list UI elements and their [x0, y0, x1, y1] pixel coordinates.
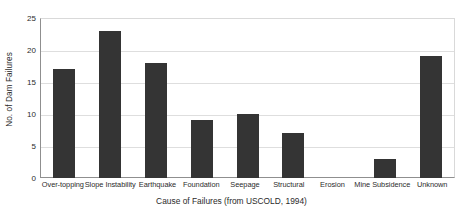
- bar[interactable]: [420, 56, 442, 178]
- bar-slot: [133, 18, 179, 178]
- bar[interactable]: [145, 63, 167, 178]
- x-tick-label: Structural: [267, 180, 311, 189]
- bar-slot: [179, 18, 225, 178]
- x-axis-tick-labels: Over-toppingSlope InstabilityEarthquakeF…: [41, 180, 454, 189]
- bar-slot: [41, 18, 87, 178]
- y-tick-label: 15: [4, 78, 40, 87]
- y-axis-ticks: 0510152025: [0, 18, 40, 178]
- y-tick-label: 10: [4, 110, 40, 119]
- bar-slot: [316, 18, 362, 178]
- bars-layer: [41, 18, 454, 178]
- bar-slot: [362, 18, 408, 178]
- x-tick-label: Unknown: [410, 180, 454, 189]
- y-tick-label: 0: [4, 174, 40, 183]
- x-tick-label: Erosion: [311, 180, 355, 189]
- x-tick-label: Over-topping: [41, 180, 85, 189]
- bar[interactable]: [99, 31, 121, 178]
- bar[interactable]: [282, 133, 304, 178]
- bar-slot: [270, 18, 316, 178]
- bar[interactable]: [191, 120, 213, 178]
- bar-chart: No. of Dam Failures 0510152025 Over-topp…: [0, 0, 463, 221]
- bar[interactable]: [237, 114, 259, 178]
- bar-slot: [408, 18, 454, 178]
- x-tick-label: Foundation: [179, 180, 223, 189]
- x-tick-label: Mine Subsidence: [354, 180, 410, 189]
- x-axis-title: Cause of Failures (from USCOLD, 1994): [0, 196, 463, 206]
- y-tick-label: 20: [4, 46, 40, 55]
- x-tick-label: Slope Instability: [85, 180, 136, 189]
- bar[interactable]: [53, 69, 75, 178]
- bar[interactable]: [374, 159, 396, 178]
- y-tick-label: 5: [4, 142, 40, 151]
- x-tick-label: Seepage: [223, 180, 267, 189]
- x-tick-label: Earthquake: [136, 180, 180, 189]
- y-tick-label: 25: [4, 14, 40, 23]
- bar-slot: [87, 18, 133, 178]
- bar-slot: [225, 18, 271, 178]
